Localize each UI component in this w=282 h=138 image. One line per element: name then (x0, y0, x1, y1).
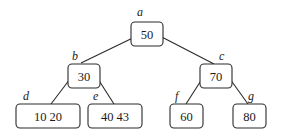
node-value: 60 (180, 110, 193, 124)
nodes: 50a30b70c10 20d40 43e60f80g (16, 5, 266, 128)
edge-b-d (51, 79, 70, 104)
node-label: g (248, 89, 254, 103)
node-value: 10 20 (34, 110, 62, 124)
tree-node-a: 50a (131, 5, 163, 46)
tree-node-c: 70c (200, 49, 232, 88)
node-label: e (93, 89, 99, 103)
tree-node-e: 40 43e (88, 89, 142, 128)
node-label: c (219, 49, 225, 63)
tree-node-d: 10 20d (16, 89, 80, 128)
node-value: 50 (141, 28, 154, 42)
tree-node-g: 80g (233, 89, 266, 128)
edge-a-c (156, 34, 214, 64)
node-label: a (137, 5, 143, 19)
tree-diagram: 50a30b70c10 20d40 43e60f80g (0, 0, 282, 138)
tree-node-b: 30b (68, 49, 100, 88)
node-value: 80 (243, 110, 256, 124)
tree-node-f: 60f (170, 89, 203, 128)
node-label: b (72, 49, 78, 63)
node-label: d (23, 89, 30, 103)
node-value: 70 (210, 70, 223, 84)
node-value: 40 43 (101, 110, 129, 124)
node-value: 30 (78, 70, 91, 84)
edge-c-g (230, 79, 248, 104)
node-label: f (175, 89, 180, 103)
